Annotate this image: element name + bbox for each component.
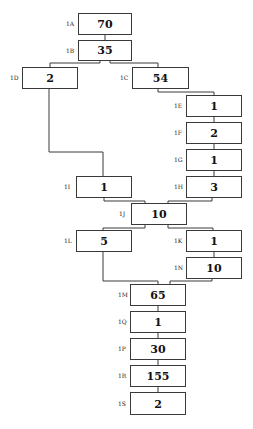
node-label: 1D <box>10 75 19 81</box>
node-box-1i: 1 <box>76 176 132 198</box>
node-value: 5 <box>100 236 108 247</box>
node-value: 1 <box>154 317 162 328</box>
node-label: 1M <box>118 292 128 298</box>
node-label: 1B <box>66 48 74 54</box>
node-box-1j: 10 <box>131 203 187 225</box>
node-box-1c: 54 <box>132 67 189 89</box>
node-value: 2 <box>154 399 162 410</box>
node-box-1a: 70 <box>78 13 132 35</box>
connector-lines <box>0 0 253 429</box>
node-box-1b: 35 <box>78 40 132 61</box>
node-label: 1F <box>174 130 182 136</box>
node-value: 1 <box>100 182 108 193</box>
node-value: 155 <box>147 371 170 382</box>
node-box-1r: 155 <box>130 365 186 387</box>
node-value: 65 <box>150 290 165 301</box>
node-value: 3 <box>210 182 218 193</box>
node-label: 1R <box>118 373 126 379</box>
node-value: 10 <box>206 263 221 274</box>
node-label: 1I <box>64 184 70 190</box>
node-label: 1L <box>64 238 72 244</box>
node-value: 1 <box>210 236 218 247</box>
node-box-1d: 2 <box>22 67 78 89</box>
node-box-1p: 30 <box>130 338 186 360</box>
node-value: 1 <box>210 101 218 112</box>
node-box-1e: 1 <box>186 95 242 117</box>
node-label: 1P <box>118 346 126 352</box>
node-label: 1K <box>174 238 182 244</box>
node-box-1n: 10 <box>186 257 242 279</box>
node-value: 2 <box>210 128 218 139</box>
node-label: 1S <box>118 401 126 407</box>
node-label: 1N <box>174 265 183 271</box>
node-label: 1Q <box>118 319 127 325</box>
node-box-1m: 65 <box>130 284 186 306</box>
node-label: 1C <box>120 75 128 81</box>
node-box-1h: 3 <box>186 176 242 198</box>
node-box-1f: 2 <box>186 122 242 144</box>
node-label: 1G <box>174 157 183 163</box>
node-box-1k: 1 <box>186 230 242 252</box>
node-label: 1J <box>119 211 125 217</box>
node-value: 2 <box>46 73 54 84</box>
node-label: 1A <box>66 21 74 27</box>
node-label: 1E <box>174 103 182 109</box>
node-box-1q: 1 <box>130 311 186 333</box>
flow-diagram: 701A351B21D541C11E21F11G31H11I101J51L11K… <box>0 0 253 429</box>
node-value: 70 <box>97 19 112 30</box>
node-box-1g: 1 <box>186 149 242 171</box>
node-value: 35 <box>97 45 112 56</box>
node-value: 54 <box>153 73 168 84</box>
node-label: 1H <box>174 184 183 190</box>
node-box-1s: 2 <box>130 392 186 415</box>
node-box-1l: 5 <box>76 230 132 252</box>
node-value: 10 <box>151 209 166 220</box>
node-value: 30 <box>150 344 165 355</box>
node-value: 1 <box>210 155 218 166</box>
